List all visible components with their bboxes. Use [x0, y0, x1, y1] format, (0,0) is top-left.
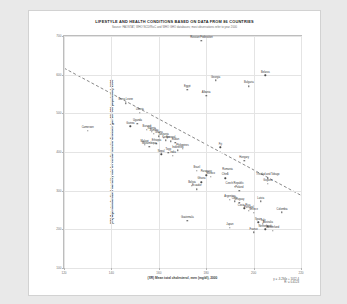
data-point-label: Latvia: [257, 197, 264, 200]
data-point-label: Brazil: [193, 166, 200, 169]
data-point[interactable]: [177, 150, 178, 151]
data-point[interactable]: [130, 126, 131, 127]
data-point[interactable]: [196, 170, 197, 171]
y-gridline: [64, 36, 301, 37]
data-point[interactable]: [137, 123, 138, 124]
y-tick-label: 600: [56, 73, 61, 77]
plot-area: (XN) Age-standardized mortality rate for…: [63, 35, 302, 269]
data-point-label: Colombia: [277, 208, 288, 211]
regression-annotation: y = -3.294x + 1012.4 R² = 0.4123: [273, 278, 299, 285]
data-point[interactable]: [272, 230, 273, 231]
data-point[interactable]: [248, 86, 249, 87]
x-tick-label: 220: [298, 271, 303, 275]
chart-sheet: LIFESTYLE AND HEALTH CONDITIONS BASED ON…: [28, 10, 321, 296]
regression-r2: R² = 0.4123: [273, 281, 299, 285]
data-point[interactable]: [125, 103, 126, 104]
data-point[interactable]: [160, 154, 161, 155]
x-gridline: [64, 36, 65, 268]
y-tick-label: 200: [56, 227, 61, 231]
data-point[interactable]: [87, 130, 88, 131]
data-point[interactable]: [201, 40, 202, 41]
page-title: LIFESTYLE AND HEALTH CONDITIONS BASED ON…: [29, 19, 320, 24]
x-gridline: [206, 36, 207, 268]
data-point-label: Trinidad and Tobago: [256, 173, 280, 176]
y-gridline: [64, 191, 301, 192]
data-point[interactable]: [258, 222, 259, 223]
data-point[interactable]: [267, 183, 268, 184]
chart-subtitle: Source: FAOSTAT, WHO NCD/RisC and WHO GH…: [29, 26, 320, 30]
y-gridline: [64, 152, 301, 153]
data-point-label: Fiji: [219, 143, 222, 146]
data-point-label: Sierra Leone: [118, 98, 133, 101]
y-tick-label: 500: [56, 111, 61, 115]
data-point[interactable]: [196, 188, 197, 189]
data-point-label: Czech Republic: [226, 182, 244, 185]
data-point[interactable]: [165, 140, 166, 141]
x-tick-label: 120: [61, 271, 66, 275]
x-tick-label: 160: [156, 271, 161, 275]
data-point-label: Egypt: [184, 85, 191, 88]
data-point-label: Mozambique: [142, 142, 157, 145]
data-point[interactable]: [210, 176, 211, 177]
x-gridline: [301, 36, 302, 268]
data-point-label: Ecuador: [192, 184, 202, 187]
data-point[interactable]: [187, 220, 188, 221]
y-gridline: [64, 268, 301, 269]
x-gridline: [111, 36, 112, 268]
data-point[interactable]: [281, 212, 282, 213]
data-point[interactable]: [220, 147, 221, 148]
data-point[interactable]: [149, 146, 150, 147]
data-point-label: Uruguay: [234, 198, 244, 201]
data-point-label: Sudan: [172, 138, 180, 141]
data-point-label: France: [250, 228, 258, 231]
data-point-label: Poland: [235, 186, 243, 189]
data-point-label: Cameroon: [82, 126, 94, 129]
data-point[interactable]: [187, 89, 188, 90]
y-gridline: [64, 113, 301, 114]
data-point[interactable]: [229, 199, 230, 200]
data-point-label: Guatemala: [181, 216, 194, 219]
y-tick-label: 100: [56, 266, 61, 270]
data-point[interactable]: [243, 160, 244, 161]
data-point[interactable]: [229, 227, 230, 228]
data-point[interactable]: [260, 201, 261, 202]
title-block: LIFESTYLE AND HEALTH CONDITIONS BASED ON…: [29, 19, 320, 30]
data-point[interactable]: [201, 181, 202, 182]
data-point-label: Guyana: [263, 179, 272, 182]
x-tick-label: 180: [204, 271, 209, 275]
data-point-label: Mexico: [207, 172, 215, 175]
data-point-label: Ghana: [198, 177, 206, 180]
y-tick-label: 300: [56, 189, 61, 193]
data-point-label: Nepal: [158, 150, 165, 153]
data-point-label: Guinea: [126, 122, 134, 125]
y-tick-label: 400: [56, 150, 61, 154]
data-point-label: Hungary: [239, 156, 249, 159]
data-point-label: Belarus: [261, 71, 270, 74]
data-point-label: India: [170, 151, 176, 154]
data-point[interactable]: [172, 155, 173, 156]
x-gridline: [254, 36, 255, 268]
data-point-label: Liberia: [136, 108, 144, 111]
x-axis-label: (XR) Mean total cholesterol, men (mg/dl)…: [64, 276, 301, 280]
data-point-label: Bulgaria: [244, 81, 254, 84]
x-tick-label: 140: [109, 271, 114, 275]
data-point[interactable]: [224, 178, 225, 179]
data-point[interactable]: [215, 80, 216, 81]
data-point-label: Albania: [202, 91, 211, 94]
data-point-label: Romania: [222, 168, 232, 171]
data-point-label: Russian Federation: [190, 36, 213, 39]
data-point-label: China: [222, 173, 229, 176]
data-point-label: Japan: [226, 223, 233, 226]
data-point-label: Indonesia: [172, 146, 183, 149]
y-tick-label: 700: [56, 34, 61, 38]
data-point-label: Netherlands: [258, 225, 272, 228]
data-point-label: Greece: [249, 208, 258, 211]
x-tick-label: 200: [251, 271, 256, 275]
data-point-label: Georgia: [211, 76, 220, 79]
